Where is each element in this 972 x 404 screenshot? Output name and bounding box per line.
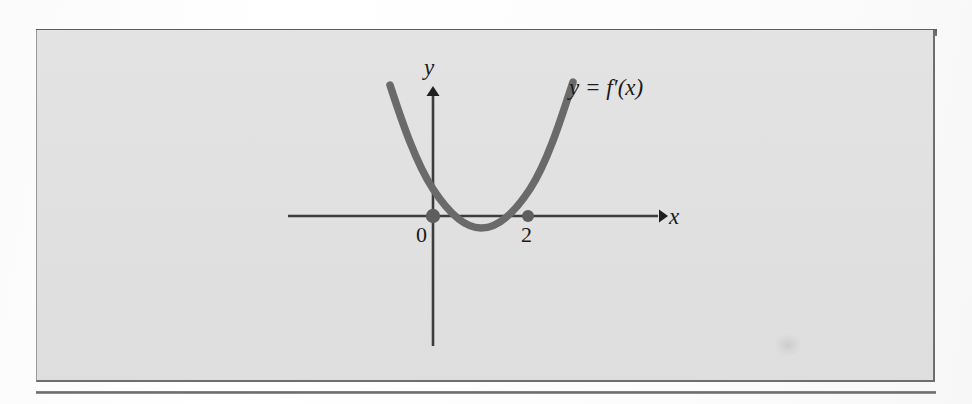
- tick-label-two: 2: [521, 224, 532, 246]
- curve-equation-label: y = f′(x): [569, 76, 643, 99]
- figure-root: y x y = f′(x) 0 2: [0, 0, 972, 404]
- y-axis-label: y: [424, 56, 434, 79]
- tick-label-zero: 0: [416, 224, 427, 246]
- x-axis: [288, 210, 668, 223]
- bottom-rule: [36, 391, 936, 394]
- root-marker-0: [426, 209, 440, 223]
- derivative-curve: [390, 82, 573, 228]
- graph-canvas: [36, 30, 935, 382]
- root-marker-2: [522, 210, 534, 222]
- x-axis-label: x: [669, 205, 679, 228]
